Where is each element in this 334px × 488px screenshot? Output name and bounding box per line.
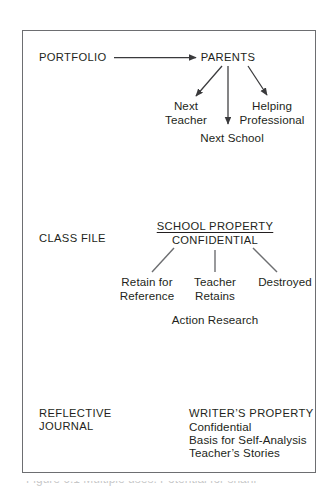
cropped-caption-sliver: Figure 6.1 Multiple uses. Potential for …	[26, 481, 258, 488]
node-next-teacher-line2: Teacher	[165, 113, 207, 127]
node-helping-professional-line1: Helping	[252, 99, 292, 113]
row-label-class-file: CLASS FILE	[39, 232, 106, 245]
heading-writers-property: WRITER’S PROPERTY	[189, 407, 313, 420]
node-helping-professional-line2: Professional	[240, 113, 305, 127]
reflective-journal-line-3: Teacher’s Stories	[189, 446, 280, 460]
heading-school-property: SCHOOL PROPERTY	[157, 220, 274, 233]
cropped-caption-text: Figure 6.1 Multiple uses. Potential for …	[26, 481, 258, 486]
row-label-reflective-journal-line1: REFLECTIVE	[39, 407, 112, 420]
figure-page: { "figure": { "row_labels": [ { "id": "p…	[0, 0, 334, 488]
node-retain-for-reference-line2: Reference	[120, 289, 174, 303]
heading-confidential: CONFIDENTIAL	[172, 234, 258, 247]
node-retain-for-reference-line1: Retain for	[121, 275, 172, 289]
node-parents: PARENTS	[201, 51, 255, 64]
reflective-journal-line-2: Basis for Self-Analysis	[189, 433, 307, 447]
row-label-reflective-journal-line2: JOURNAL	[39, 420, 94, 433]
node-destroyed: Destroyed	[258, 275, 312, 289]
node-teacher-retains-line2: Retains	[195, 289, 235, 303]
reflective-journal-line-1: Confidential	[189, 420, 251, 434]
node-action-research: Action Research	[172, 313, 259, 327]
node-next-teacher-line1: Next	[174, 99, 198, 113]
node-next-school: Next School	[200, 131, 264, 145]
node-teacher-retains-line1: Teacher	[194, 275, 236, 289]
row-label-portfolio: PORTFOLIO	[39, 51, 107, 64]
